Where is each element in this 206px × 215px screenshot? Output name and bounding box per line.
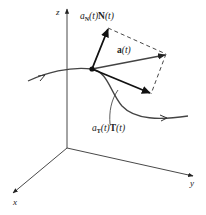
normal-component-label: aN(t)N(t) — [80, 11, 114, 22]
curve-left — [28, 68, 92, 81]
z-axis-label: z — [55, 7, 60, 17]
point-on-curve — [89, 66, 94, 71]
x-axis-label: x — [12, 197, 17, 207]
acceleration-label: a(t) — [117, 45, 131, 56]
vectors — [89, 29, 165, 93]
tangential-component-arrow — [92, 69, 150, 93]
curve-direction-arrow-icon — [38, 75, 45, 81]
x-axis — [13, 148, 67, 193]
y-axis-label: y — [189, 178, 194, 188]
axes: z y x — [12, 7, 194, 207]
acceleration-arrow — [92, 55, 165, 69]
normal-component-arrow — [92, 29, 108, 69]
curve-right — [92, 69, 188, 118]
y-axis — [67, 148, 193, 176]
tangential-component-label: aT(t)T(t) — [92, 123, 125, 134]
vector-diagram: z y x aN(t)N(t) a(t) aT(t)T(t) — [0, 0, 206, 215]
tangential-leader-line — [110, 90, 118, 124]
